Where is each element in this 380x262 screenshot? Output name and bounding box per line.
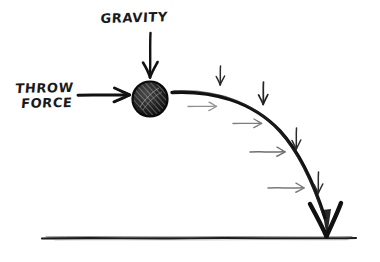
ball: [133, 82, 168, 117]
sketch-canvas: GRAVITY THROW FORCE: [0, 0, 380, 262]
physics-diagram: [0, 0, 380, 262]
gravity-label: GRAVITY: [100, 10, 168, 25]
throw-force-label: THROW FORCE: [14, 81, 75, 110]
gravity-component-arrow-1: [216, 66, 224, 85]
velocity-arrow-4: [268, 183, 304, 192]
velocity-arrow-1: [188, 102, 217, 110]
velocity-arrow-2: [233, 119, 262, 128]
gravity-component-arrow-2: [259, 82, 268, 105]
throw-force-label-line1: THROW: [15, 80, 74, 96]
gravity-arrow: [143, 33, 158, 78]
trajectory-curve: [172, 91, 341, 237]
ground-line: [42, 237, 356, 240]
throw-force-label-line2: FORCE: [14, 96, 74, 111]
velocity-arrow-3: [250, 147, 285, 156]
throw-force-arrow: [78, 88, 130, 102]
